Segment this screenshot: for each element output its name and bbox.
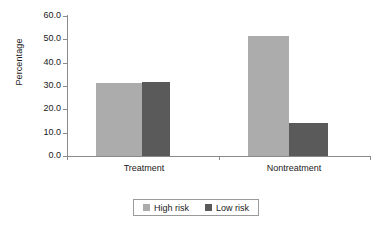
x-tick-middle bbox=[219, 156, 220, 160]
bar-nontreatment-low-risk bbox=[289, 123, 328, 156]
legend-label: Low risk bbox=[216, 203, 249, 213]
legend-item-high-risk: High risk bbox=[143, 203, 189, 213]
legend-item-low-risk: Low risk bbox=[205, 203, 249, 213]
y-tick-mark bbox=[63, 16, 67, 17]
bar-chart: Percentage 60.0 50.0 40.0 30.0 20.0 10.0 bbox=[0, 0, 383, 225]
x-tick-start bbox=[67, 156, 68, 160]
y-tick-label: 40.0 bbox=[43, 57, 61, 67]
legend-swatch-icon bbox=[143, 204, 150, 211]
y-tick-mark bbox=[63, 133, 67, 134]
y-tick-mark bbox=[63, 86, 67, 87]
y-tick-label: 30.0 bbox=[43, 80, 61, 90]
y-tick-mark bbox=[63, 63, 67, 64]
x-axis-label-nontreatment: Nontreatment bbox=[246, 163, 342, 173]
legend-swatch-icon bbox=[205, 204, 212, 211]
y-tick-label: 50.0 bbox=[43, 33, 61, 43]
x-tick-end bbox=[370, 156, 371, 160]
x-axis-label-treatment: Treatment bbox=[96, 163, 192, 173]
y-tick-mark bbox=[63, 109, 67, 110]
y-tick-label: 10.0 bbox=[43, 127, 61, 137]
y-tick-mark bbox=[63, 39, 67, 40]
bar-nontreatment-high-risk bbox=[248, 36, 289, 156]
y-tick-label: 0.0 bbox=[48, 150, 61, 160]
y-tick-label: 60.0 bbox=[43, 10, 61, 20]
y-axis-title: Percentage bbox=[14, 17, 24, 107]
bar-treatment-low-risk bbox=[142, 82, 170, 156]
legend: High risk Low risk bbox=[133, 199, 259, 216]
plot-area: 60.0 50.0 40.0 30.0 20.0 10.0 0.0 bbox=[67, 16, 371, 156]
bar-treatment-high-risk bbox=[96, 83, 142, 156]
legend-label: High risk bbox=[154, 203, 189, 213]
y-tick-label: 20.0 bbox=[43, 103, 61, 113]
